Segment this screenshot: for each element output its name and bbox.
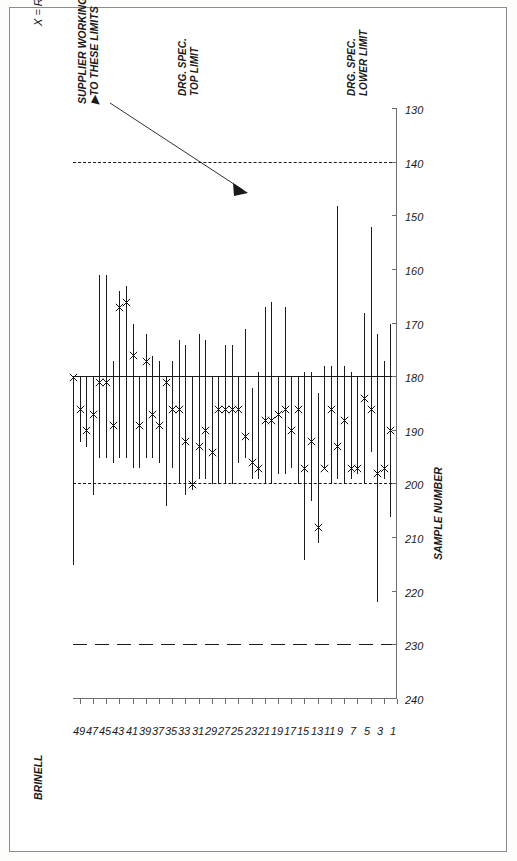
brinell-tick	[392, 268, 397, 269]
sample-range-line	[225, 345, 226, 484]
plot-area: 240230220210200190180170160150140130 135…	[73, 109, 397, 699]
position-9-reading-marker	[141, 356, 150, 365]
sample-tick-label: 29	[204, 725, 216, 737]
position-9-reading-marker	[359, 394, 368, 403]
sample-axis-line	[73, 698, 397, 699]
position-9-reading-marker	[168, 404, 177, 413]
brinell-tick-label: 240	[405, 694, 423, 706]
reference-line-drg-spec-top-limit	[73, 483, 397, 484]
sample-tick	[357, 699, 358, 704]
sample-tick	[106, 699, 107, 704]
sample-tick-label: 41	[125, 725, 137, 737]
brinell-tick-label: 200	[405, 479, 423, 491]
sample-tick-label: 31	[191, 725, 203, 737]
sample-tick-label: 45	[99, 725, 111, 737]
sample-range-line	[86, 377, 87, 447]
sample-range-line	[238, 377, 239, 463]
sample-range-line	[132, 323, 133, 468]
position-9-reading-marker	[135, 420, 144, 429]
plot-rotation-wrapper: 240230220210200190180170160150140130 135…	[59, 101, 459, 761]
sample-tick-label: 39	[138, 725, 150, 737]
sample-range-line	[337, 205, 338, 479]
position-9-reading-marker	[108, 420, 117, 429]
supplier-limit-note: SUPPLIER WORKING ▶TO THESE LIMITS	[76, 0, 101, 104]
sample-range-line	[73, 377, 74, 565]
sample-tick-label: 33	[178, 725, 190, 737]
brinell-tick-label: 230	[405, 640, 423, 652]
sample-range-line	[145, 334, 146, 457]
legend-note: X = Reading at position 9	[32, 0, 45, 26]
x-axis-title: SAMPLE NUMBER	[432, 467, 444, 560]
position-9-reading-marker	[75, 404, 84, 413]
sample-range-line	[264, 307, 265, 484]
position-9-reading-marker	[320, 463, 329, 472]
sample-tick	[277, 699, 278, 704]
sample-range-line	[258, 371, 259, 478]
brinell-tick	[392, 215, 397, 216]
figure-page: 240230220210200190180170160150140130 135…	[0, 0, 517, 861]
sample-range-line	[152, 355, 153, 457]
sample-tick-label: 47	[85, 725, 97, 737]
sample-range-line	[383, 361, 384, 479]
position-9-reading-marker	[82, 426, 91, 435]
sample-tick	[291, 699, 292, 704]
sample-range-line	[231, 345, 232, 484]
position-9-reading-marker	[300, 463, 309, 472]
sample-tick-label: 35	[165, 725, 177, 737]
sample-tick	[79, 699, 80, 704]
sample-range-line	[297, 377, 298, 484]
position-9-reading-marker	[346, 463, 355, 472]
position-9-reading-marker	[247, 458, 256, 467]
sample-range-line	[112, 361, 113, 463]
sample-tick-label: 9	[337, 725, 343, 737]
position-9-reading-marker	[95, 378, 104, 387]
sample-range-line	[291, 377, 292, 468]
sample-range-line	[284, 307, 285, 473]
sample-tick-label: 15	[297, 725, 309, 737]
brinell-tick	[392, 429, 397, 430]
sample-tick-label: 13	[310, 725, 322, 737]
position-9-reading-marker	[240, 431, 249, 440]
brinell-tick	[392, 108, 397, 109]
sample-tick	[158, 699, 159, 704]
sample-range-line	[158, 361, 159, 463]
position-9-reading-marker	[154, 420, 163, 429]
sample-range-line	[277, 377, 278, 474]
sample-tick	[317, 699, 318, 704]
brinell-tick-label: 130	[405, 104, 423, 116]
brinell-tick	[392, 698, 397, 699]
position-9-reading-marker	[214, 404, 223, 413]
sample-tick-label: 27	[218, 725, 230, 737]
position-9-reading-marker	[148, 410, 157, 419]
y-axis-title: BRINELL	[32, 755, 44, 801]
sample-tick	[264, 699, 265, 704]
position-9-reading-marker	[260, 415, 269, 424]
position-9-reading-marker	[88, 410, 97, 419]
brinell-tick-label: 180	[405, 372, 423, 384]
position-9-reading-marker	[307, 437, 316, 446]
sample-tick-label: 43	[112, 725, 124, 737]
sample-tick	[238, 699, 239, 704]
position-9-reading-marker	[181, 437, 190, 446]
sample-tick	[344, 699, 345, 704]
sample-tick	[172, 699, 173, 704]
sample-tick	[198, 699, 199, 704]
brinell-tick-label: 160	[405, 264, 423, 276]
lower-limit-label: DRG. SPEC. LOWER LIMIT	[346, 30, 370, 96]
brinell-tick-label: 170	[405, 318, 423, 330]
sample-tick	[92, 699, 93, 704]
sample-range-line	[324, 366, 325, 468]
reference-line-drg-spec-lower-limit	[73, 161, 397, 162]
sample-tick	[397, 699, 398, 704]
sample-tick-label: 3	[376, 725, 382, 737]
sample-tick-label: 23	[244, 725, 256, 737]
sample-tick-label: 19	[270, 725, 282, 737]
position-9-reading-marker	[287, 426, 296, 435]
sample-range-line	[172, 361, 173, 468]
brinell-tick-label: 220	[405, 586, 423, 598]
top-limit-label: DRG. SPEC. TOP LIMIT	[177, 38, 201, 96]
sample-tick	[225, 699, 226, 704]
position-9-reading-marker	[161, 378, 170, 387]
sample-range-line	[344, 366, 345, 484]
sample-tick-label: 11	[323, 725, 334, 737]
